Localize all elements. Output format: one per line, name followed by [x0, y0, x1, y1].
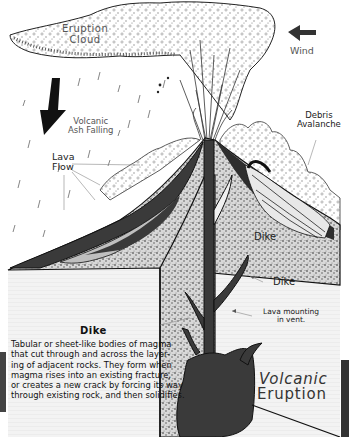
ash-falling-arrow-icon [40, 78, 66, 135]
dike-description-text: Tabular or sheet-like bodies of magma th… [11, 339, 241, 401]
label-debris-avalanche: Debris Avalanche [297, 111, 341, 129]
volcano-diagram: Eruption Cloud Wind Volcanic Ash Falling… [0, 0, 349, 437]
dike-description-title: Dike [80, 325, 107, 336]
label-wind: Wind [290, 46, 314, 56]
label-dike-upper: Dike [254, 232, 276, 243]
label-dike-lower: Dike [273, 277, 295, 288]
label-lava-flow: Lava Flow [52, 152, 75, 172]
diagram-title: Volcanic Eruption [257, 372, 328, 402]
label-volcanic-ash: Volcanic Ash Falling [68, 117, 114, 135]
label-lava-mounting-in-vent: Lava mounting in vent. [263, 308, 319, 324]
wind-arrow-icon [288, 25, 316, 41]
label-eruption-cloud: Eruption Cloud [62, 24, 108, 45]
